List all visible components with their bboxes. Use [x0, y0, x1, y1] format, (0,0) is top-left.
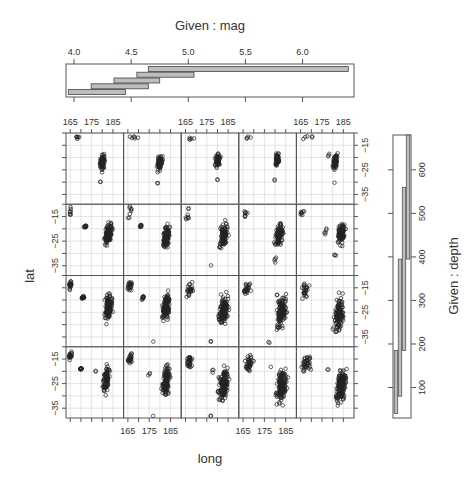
given-depth-panel: 100200300400500600 — [388, 135, 427, 418]
x-tick-label-top: 165 — [293, 117, 308, 127]
panel-frame — [66, 133, 124, 204]
scatter-panel — [239, 347, 297, 418]
x-tick-label-bottom: 165 — [236, 426, 251, 436]
y-tick-label-right: −15 — [360, 280, 370, 295]
y-tick-label-left: −15 — [50, 209, 60, 224]
data-point — [152, 340, 156, 344]
depth-interval-bar — [394, 351, 398, 414]
x-tick-label-bottom: 175 — [257, 426, 272, 436]
scatter-panel — [124, 347, 182, 418]
panel-frame — [124, 133, 182, 204]
scatter-panel — [66, 276, 124, 347]
scatter-panel — [296, 276, 354, 347]
data-point — [151, 414, 155, 418]
depth-tick-label: 200 — [417, 336, 427, 351]
mag-tick-label: 4.5 — [125, 47, 138, 57]
x-tick-label-bottom: 175 — [142, 426, 157, 436]
scatter-panel — [181, 204, 239, 275]
x-tick-label-top: 175 — [314, 117, 329, 127]
depth-interval-bar — [402, 187, 406, 350]
coplot-chart: 4.04.55.05.56.0 100200300400500600 16517… — [0, 0, 472, 482]
data-point — [226, 366, 230, 370]
scatter-panel — [66, 347, 124, 418]
panel-frame — [66, 276, 124, 347]
scatter-panel — [239, 276, 297, 347]
data-point — [104, 393, 108, 397]
scatter-panel — [181, 347, 239, 418]
y-tick-label-right: −25 — [360, 305, 370, 320]
mag-interval-bar — [68, 90, 125, 95]
mag-tick-label: 4.0 — [68, 47, 81, 57]
scatter-panel — [66, 133, 124, 204]
panel-frame — [124, 204, 182, 275]
panel-frame — [181, 133, 239, 204]
mag-interval-bar — [114, 78, 160, 83]
scatter-panel — [181, 276, 239, 347]
depth-interval-bar — [398, 259, 402, 396]
y-tick-label-right: −15 — [360, 138, 370, 153]
depth-tick-label: 300 — [417, 293, 427, 308]
data-point — [222, 364, 226, 368]
x-tick-label-top: 165 — [63, 117, 78, 127]
y-tick-label-left: −25 — [50, 233, 60, 248]
panel-frame — [296, 204, 354, 275]
scatter-panel — [124, 204, 182, 275]
y-tick-label-left: −35 — [50, 401, 60, 416]
data-point — [105, 322, 109, 326]
x-tick-label-top: 185 — [221, 117, 236, 127]
scatter-panel — [239, 133, 297, 204]
scatter-panels-grid — [66, 133, 354, 418]
data-point — [192, 137, 196, 141]
mag-interval-bar — [148, 66, 348, 71]
data-point — [341, 292, 345, 296]
data-point — [269, 365, 273, 369]
data-point — [268, 341, 272, 345]
data-point — [105, 363, 109, 367]
y-axis-label: lat — [22, 269, 37, 283]
x-tick-label-bottom: 185 — [278, 426, 293, 436]
scatter-panel — [66, 204, 124, 275]
y-tick-label-left: −35 — [50, 258, 60, 273]
scatter-panel — [296, 347, 354, 418]
x-tick-label-bottom: 185 — [163, 426, 178, 436]
y-tick-label-left: −15 — [50, 351, 60, 366]
depth-tick-label: 600 — [417, 162, 427, 177]
data-point — [128, 212, 132, 216]
scatter-panel — [124, 133, 182, 204]
scatter-panel — [124, 276, 182, 347]
data-point — [337, 291, 341, 295]
data-point — [224, 218, 228, 222]
y-tick-label-right: −25 — [360, 162, 370, 177]
depth-interval-bar — [406, 135, 410, 259]
scatter-panel — [181, 133, 239, 204]
data-point — [166, 289, 170, 293]
x-tick-label-top: 185 — [336, 117, 351, 127]
y-tick-label-right: −35 — [360, 187, 370, 202]
given-mag-title: Given : mag — [175, 18, 245, 33]
y-tick-label-left: −25 — [50, 376, 60, 391]
x-tick-label-top: 185 — [105, 117, 120, 127]
mag-tick-label: 6.0 — [296, 47, 309, 57]
mag-tick-label: 5.5 — [239, 47, 252, 57]
scatter-panel — [296, 204, 354, 275]
mag-tick-label: 5.0 — [182, 47, 195, 57]
x-tick-label-top: 175 — [84, 117, 99, 127]
panel-frame — [296, 133, 354, 204]
depth-tick-label: 500 — [417, 206, 427, 221]
panel-frame — [239, 133, 297, 204]
panel-frame — [66, 204, 124, 275]
data-point — [225, 290, 229, 294]
depth-tick-label: 100 — [417, 380, 427, 395]
x-tick-label-top: 175 — [199, 117, 214, 127]
y-tick-label-right: −35 — [360, 329, 370, 344]
scatter-panel — [296, 133, 354, 204]
data-point — [339, 401, 343, 405]
mag-interval-bar — [91, 84, 148, 89]
panel-frame — [66, 347, 124, 418]
x-tick-label-bottom: 165 — [120, 426, 135, 436]
data-point — [333, 181, 337, 185]
depth-tick-label: 400 — [417, 249, 427, 264]
mag-interval-bar — [137, 72, 194, 77]
given-depth-title: Given : depth — [446, 237, 461, 314]
data-point — [281, 404, 285, 408]
